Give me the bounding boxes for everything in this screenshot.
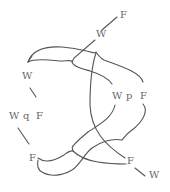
edge-top-w-down (72, 40, 95, 62)
string-diagram: F W W W p F W q F F F W (0, 0, 170, 192)
label-wqf-q: q (23, 110, 30, 121)
edge-lowf-loop (38, 151, 126, 164)
edge-upper-loop-inner (28, 60, 112, 84)
label-top-w: W (96, 28, 107, 39)
label-mid-f: F (140, 90, 147, 101)
label-mid-p: p (126, 90, 132, 101)
label-mid-w: W (112, 90, 123, 101)
edge-upper-loop (28, 47, 143, 82)
edge-left-w-wqf (30, 88, 36, 97)
label-right-f: F (127, 155, 134, 166)
edge-rightf-bottomw (135, 168, 145, 176)
label-left-w: W (22, 70, 33, 81)
edge-lowf-branch (72, 146, 73, 151)
label-bottom-w: W (149, 169, 160, 180)
label-wqf-f: F (36, 110, 43, 121)
label-top-f: F (120, 9, 127, 20)
label-low-f: F (29, 152, 36, 163)
edge-wqf-lowf (18, 128, 29, 144)
label-wqf-w: W (9, 110, 20, 121)
edge-long-strand (90, 53, 125, 158)
